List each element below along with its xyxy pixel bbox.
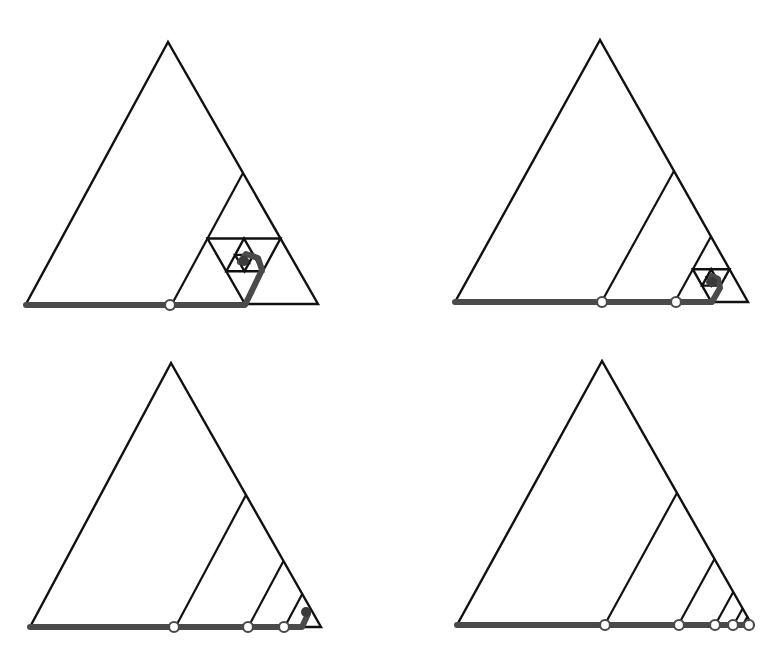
subdivision-line [678,559,714,625]
panel-bottom-right [457,361,754,630]
node-marker [710,620,720,630]
node-marker [671,297,681,307]
outer-triangle [26,42,318,304]
outer-triangle [455,40,748,302]
node-marker [243,622,253,632]
subdivision-line [605,493,678,625]
node-marker [600,620,610,630]
subdivision-line [248,561,283,627]
outer-triangle [457,361,752,625]
outer-triangle [30,363,321,627]
subdivision-line [176,495,247,627]
panel-top-right [455,40,748,307]
geometric-series-triangle-diagram [0,0,781,665]
node-marker [169,622,179,632]
node-marker [744,620,754,630]
spiral-end-marker [239,256,249,266]
spiral-end-marker [707,277,717,287]
node-marker [728,620,738,630]
node-marker [279,622,289,632]
subdivision-line [602,171,675,302]
spiral-end-marker [301,607,311,617]
panel-bottom-left [30,363,321,632]
node-marker [597,297,607,307]
node-marker [674,620,684,630]
series-path [26,254,262,305]
panel-top-left [26,42,318,310]
node-marker [165,300,175,310]
